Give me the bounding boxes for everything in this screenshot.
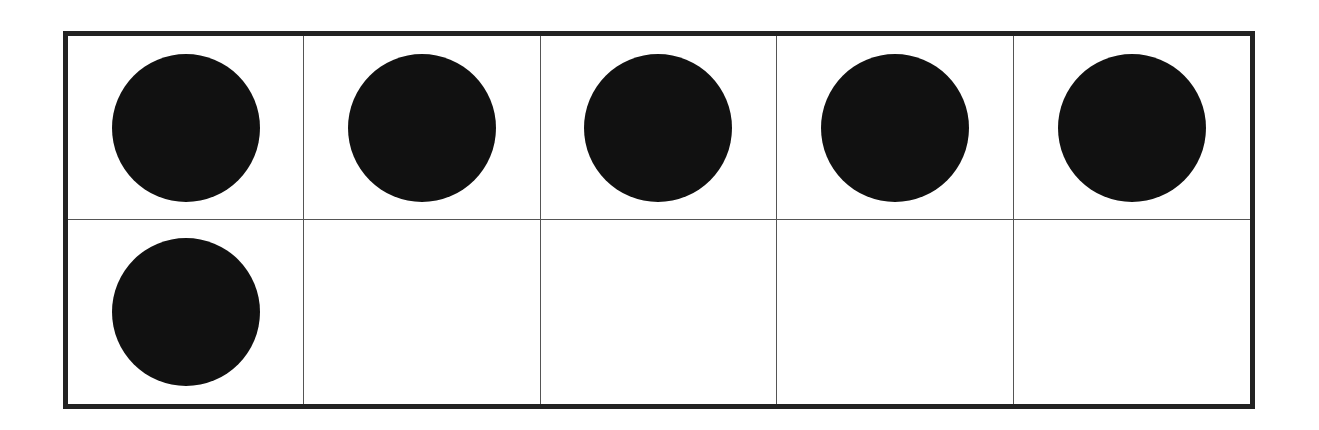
frame-cell-r2-c3 [541,220,777,404]
counter-dot-icon [112,238,260,386]
frame-cell-r2-c4 [777,220,1013,404]
counter-dot-icon [584,54,732,202]
ten-frame [63,31,1255,409]
counter-dot-icon [348,54,496,202]
counter-dot-icon [1058,54,1206,202]
frame-cell-r2-c5 [1014,220,1250,404]
frame-cell-r1-c2 [304,36,540,220]
counter-dot-icon [112,54,260,202]
counter-dot-icon [821,54,969,202]
frame-cell-r1-c4 [777,36,1013,220]
frame-cell-r2-c1 [68,220,304,404]
frame-cell-r1-c5 [1014,36,1250,220]
frame-cell-r1-c3 [541,36,777,220]
frame-cell-r1-c1 [68,36,304,220]
frame-cell-r2-c2 [304,220,540,404]
